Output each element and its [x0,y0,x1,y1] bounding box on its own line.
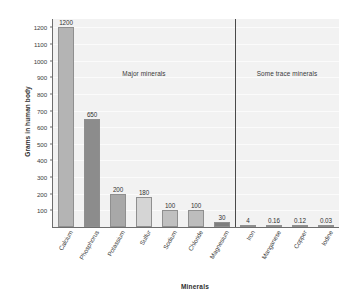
y-axis-tick: 400 [37,156,53,165]
x-axis-label-calcium: Calcium [57,229,74,252]
y-axis-tick-label: 900 [37,74,50,81]
x-axis-label-potassium: Potassium [106,229,126,257]
x-axis-label-manganese: Manganese [260,229,282,260]
bar-calcium[interactable] [58,27,74,227]
y-axis-tick: 900 [37,73,53,82]
bar-group[interactable]: 100 [188,202,204,227]
x-axis-label-magnesium: Magnesium [208,229,230,260]
bar-value-label: 4 [246,217,249,224]
x-axis-label-copper: Copper [292,229,308,250]
x-axis-title: Minerals [52,283,338,290]
bars-layer: 12006502001801001003040.160.120.03 [53,19,339,227]
y-axis-tick-label: 1200 [34,24,50,31]
bar-potassium[interactable] [110,194,126,227]
y-axis-tick: 800 [37,89,53,98]
y-axis-tick: 1100 [34,39,53,48]
bar-value-label: 30 [219,214,226,221]
bar-value-label: 1200 [59,19,73,26]
bar-value-label: 100 [165,202,175,209]
y-axis-tick-label: 200 [37,190,50,197]
y-axis-tick: 600 [37,123,53,132]
y-axis-tick-label: 400 [37,157,50,164]
bar-chloride[interactable] [188,210,204,227]
bar-value-label: 200 [113,186,123,193]
y-axis-tick-label: 500 [37,140,50,147]
y-axis-tick-label: 100 [37,207,50,214]
x-axis-label-text: Calcium [57,229,74,252]
bar-group[interactable]: 200 [110,186,126,227]
bar-group[interactable]: 4 [240,217,256,227]
bar-group[interactable]: 0.16 [266,217,282,227]
mineral-composition-bar-chart: Grams in human body 10020030040050060070… [0,0,351,300]
bar-magnesium[interactable] [214,222,230,227]
y-axis-tick: 100 [37,206,53,215]
x-axis-label-text: Sodium [162,229,178,250]
x-axis-label-sodium: Sodium [162,229,178,250]
bar-group[interactable]: 0.03 [318,217,334,227]
x-axis-label-text: Potassium [106,229,126,257]
bar-group[interactable]: 1200 [58,19,74,227]
x-axis-label-iodine: Iodine [320,229,334,247]
y-axis-tick-label: 600 [37,124,50,131]
bar-iron[interactable] [240,225,256,227]
x-axis-label-text: Phosphorus [78,229,100,261]
annotation-trace-minerals: Some trace minerals [257,70,318,77]
x-axis-label-chloride: Chloride [187,229,204,252]
y-axis-tick-label: 1000 [34,57,50,64]
bar-value-label: 180 [139,189,149,196]
y-axis-tick: 300 [37,173,53,182]
x-axis-label-text: Chloride [187,229,204,252]
bar-sodium[interactable] [162,210,178,227]
x-axis-label-text: Copper [292,229,308,250]
x-axis-label-text: Manganese [260,229,282,260]
bar-manganese[interactable] [266,225,282,227]
bar-value-label: 0.12 [294,217,306,224]
bar-group[interactable]: 180 [136,189,152,227]
annotation-major-minerals: Major minerals [122,70,165,77]
x-axis-tick-labels: CalciumPhosphorusPotassiumSulfurSodiumCh… [52,229,338,281]
bar-iodine[interactable] [318,225,334,227]
y-axis-tick-label: 800 [37,90,50,97]
plot-area: 100200300400500600700800900100011001200 … [52,19,339,228]
y-axis-tick: 500 [37,139,53,148]
x-axis-label-text: Iodine [320,229,334,247]
bar-group[interactable]: 0.12 [292,217,308,227]
y-axis-tick: 200 [37,189,53,198]
x-axis-label-sulfur: Sulfur [138,229,152,246]
x-axis-label-iron: Iron [245,229,256,242]
bar-value-label: 100 [191,202,201,209]
bar-group[interactable]: 30 [214,214,230,227]
y-axis-tick: 700 [37,106,53,115]
y-axis-tick-label: 1100 [34,40,50,47]
x-axis-label-phosphorus: Phosphorus [78,229,100,261]
x-axis-label-text: Iron [245,229,256,242]
bar-value-label: 0.03 [320,217,332,224]
bar-phosphorus[interactable] [84,119,100,227]
y-axis-tick-label: 300 [37,174,50,181]
x-axis-label-text: Sulfur [138,229,152,246]
x-axis-label-text: Magnesium [208,229,230,260]
bar-group[interactable]: 650 [84,111,100,227]
bar-copper[interactable] [292,225,308,227]
y-axis-tick: 1200 [34,23,53,32]
bar-value-label: 650 [87,111,97,118]
y-axis-tick-label: 700 [37,107,50,114]
bar-group[interactable]: 100 [162,202,178,227]
y-axis-tick: 1000 [34,56,53,65]
bar-value-label: 0.16 [268,217,280,224]
group-divider-line [235,19,236,227]
bar-sulfur[interactable] [136,197,152,227]
y-axis-title: Grams in human body [24,57,31,187]
